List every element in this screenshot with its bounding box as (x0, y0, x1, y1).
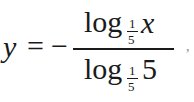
equals-sign: = (27, 31, 44, 61)
numerator-base-num: 1 (129, 17, 136, 30)
fraction-bar (73, 48, 174, 50)
denominator-log: log (84, 54, 122, 84)
denominator-arg: 5 (142, 54, 157, 84)
denominator-base-num: 1 (129, 64, 136, 77)
numerator-base-den: 5 (128, 33, 135, 46)
trailing-comma: , (186, 40, 190, 54)
lhs-variable: y (3, 32, 16, 62)
numerator-arg: x (141, 8, 154, 38)
numerator-log: log (84, 7, 122, 37)
denominator-base-den: 5 (128, 80, 135, 93)
minus-sign: − (51, 31, 68, 61)
